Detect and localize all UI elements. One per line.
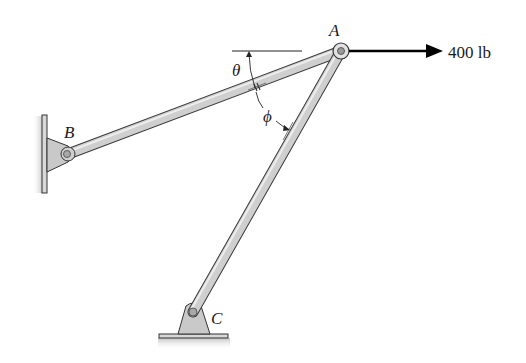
label-point-a: A	[328, 21, 340, 40]
label-force-400lb: 400 lb	[448, 43, 491, 62]
label-point-c: C	[211, 309, 223, 328]
member-ac	[191, 50, 341, 312]
wall-plate	[42, 115, 47, 193]
pin-b	[61, 147, 75, 161]
label-point-b: B	[64, 123, 75, 142]
two-member-frame-diagram: A B C θ ϕ 400 lb	[0, 0, 526, 363]
label-angle-phi: ϕ	[263, 107, 272, 126]
floor-shading	[158, 338, 230, 350]
member-ab	[68, 49, 341, 154]
label-angle-theta: θ	[232, 61, 240, 80]
wall-shading	[32, 116, 43, 193]
pin-c	[189, 308, 197, 316]
floor-plate	[159, 334, 228, 338]
angle-phi-marker	[256, 92, 290, 131]
force-arrow	[349, 44, 443, 58]
mechanics-diagram: A B C θ ϕ 400 lb	[0, 0, 526, 363]
pin-a	[333, 43, 349, 59]
